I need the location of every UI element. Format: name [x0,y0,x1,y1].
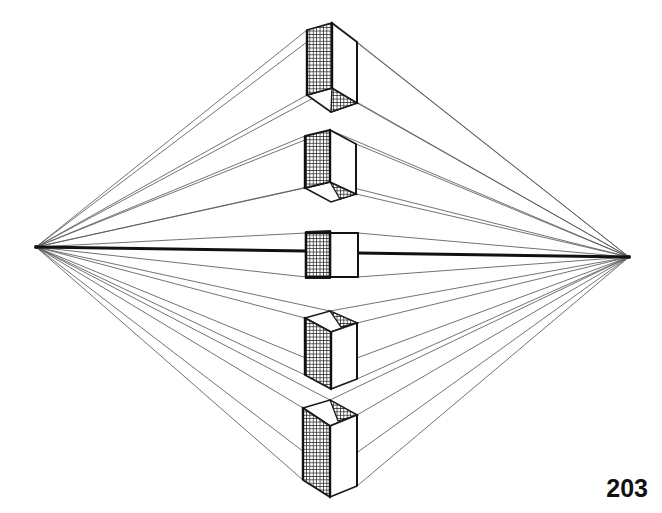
box-5-bottom [303,400,357,497]
box-3-left-face [306,231,330,278]
box-1-left-face [307,23,332,95]
box-4-right-face [331,323,357,389]
left-vanishing-point [34,245,38,249]
box-5-right-face [330,415,357,497]
box-2-left-face [305,130,330,188]
two-point-perspective-diagram [0,0,662,513]
page-number: 203 [606,476,648,501]
box-4-lower [305,311,357,389]
right-vanishing-point [627,255,631,259]
box-1-top [307,23,357,112]
box-2-upper [305,130,356,202]
box-3-center [306,231,358,278]
perspective-figure-container: 203 [0,0,662,513]
